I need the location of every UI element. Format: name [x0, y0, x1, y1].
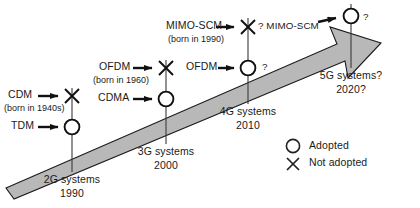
annotation-mimo-scm-unknown: ? MIMO-SCM	[258, 21, 319, 31]
technology-timeline-diagram: CDM (born in 1940s) TDM OFDM (born in 19…	[0, 0, 420, 208]
generation-name-2g: 2G systems	[22, 174, 122, 185]
connector-5g	[318, 18, 336, 22]
marker-cdma	[159, 92, 174, 107]
annotation-ofdm-unknown: ?	[262, 62, 268, 72]
legend-label-not-adopted: Not adopted	[309, 157, 367, 168]
generation-name-3g: 3G systems	[116, 146, 216, 157]
tech-label-tdm: TDM	[11, 120, 34, 131]
legend-label-adopted: Adopted	[309, 140, 349, 151]
legend-adopted-icon	[286, 139, 299, 152]
generation-year-3g: 2000	[116, 160, 216, 171]
tech-label-ofdm-1960: OFDM	[99, 61, 130, 72]
tech-born-ofdm-1960: (born in 1960)	[93, 76, 149, 85]
tech-label-cdma: CDMA	[98, 92, 129, 103]
generation-year-4g: 2010	[198, 120, 298, 131]
annotation-5g-unknown: ?	[363, 12, 369, 22]
marker-5g	[344, 9, 359, 24]
legend-not-adopted-icon	[287, 158, 299, 170]
tech-label-cdm: CDM	[8, 89, 32, 100]
marker-tdm	[65, 120, 80, 135]
generation-year-2g: 1990	[22, 188, 122, 199]
tech-born-cdm: (born in 1940s)	[4, 104, 65, 113]
marker-ofdm-4g	[241, 61, 256, 76]
tech-label-ofdm-4g: OFDM	[186, 61, 217, 72]
tech-born-mimo-scm: (born in 1990)	[168, 35, 224, 44]
generation-name-4g: 4G systems	[198, 106, 298, 117]
generation-year-5g: 2020?	[301, 84, 401, 95]
generation-name-5g: 5G systems?	[301, 70, 401, 81]
tech-label-mimo-scm: MIMO-SCM	[166, 20, 222, 31]
